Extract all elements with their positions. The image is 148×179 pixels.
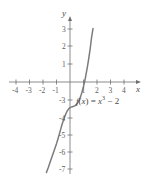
- x-tick-label-3: 3: [109, 87, 113, 95]
- y-tick-label-neg5: -5: [59, 132, 65, 140]
- function-equation-label: f(x) = x3 − 2: [76, 97, 119, 106]
- function-minus-sign: −: [107, 96, 112, 106]
- function-equals-sign: =: [91, 96, 96, 106]
- y-tick-label-2: 2: [62, 43, 66, 51]
- y-axis: [68, 16, 72, 174]
- y-tick-label-neg6: -6: [59, 149, 65, 157]
- x-tick-label-neg1: -1: [53, 87, 59, 95]
- function-close-paren: ): [86, 96, 89, 106]
- y-tick-label-neg7: -7: [59, 166, 65, 174]
- x-tick-label-neg4: -4: [12, 87, 18, 95]
- function-exponent: 3: [102, 95, 105, 101]
- y-tick-label-neg4: -4: [59, 115, 65, 123]
- y-tick-label-1: 1: [62, 61, 66, 69]
- x-tick-label-neg2: -2: [39, 87, 45, 95]
- x-tick-label-4: 4: [122, 87, 126, 95]
- x-tick-label-1: 1: [82, 87, 86, 95]
- graph-figure: -4 -3 -2 -1 1 2 3 4 3 2 1 -3 -4 -5 -6 -7…: [0, 0, 148, 179]
- x-axis: [9, 80, 141, 84]
- x-tick-label-2: 2: [95, 87, 99, 95]
- y-axis-label: y: [62, 9, 66, 18]
- y-tick-label-neg3: -3: [59, 97, 65, 105]
- function-constant: 2: [115, 96, 120, 106]
- y-tick-label-3: 3: [62, 26, 66, 34]
- x-tick-label-neg3: -3: [26, 87, 32, 95]
- x-axis-label: x: [136, 85, 140, 94]
